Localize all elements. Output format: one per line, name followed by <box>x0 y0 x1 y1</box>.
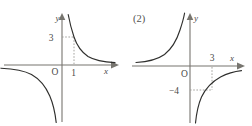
figure-1-graph: y x O 3 1 <box>0 0 126 126</box>
figure-2-graph: y x O 3 −4 <box>126 0 252 126</box>
figure-1-branch-quadrant-1 <box>68 15 115 63</box>
figure-2: (2) y x O 3 −4 <box>126 0 252 126</box>
figure-1-x-axis-label: x <box>103 66 108 76</box>
figure-2-x-axis-arrow <box>237 63 245 70</box>
figure-2-y-tick-label: −4 <box>169 86 179 96</box>
figure-1-origin-label: O <box>52 67 59 77</box>
figure-2-branch-quadrant-2 <box>136 13 185 63</box>
figure-1-y-axis-arrow <box>59 13 66 20</box>
figure-2-x-axis-label: x <box>229 53 234 63</box>
figure-1-x-tick-label: 1 <box>71 68 76 78</box>
figure-2-x-tick-label: 3 <box>210 53 215 63</box>
figure-sheet: ) y x O 3 1 (2) <box>0 0 252 126</box>
figure-2-branch-quadrant-4 <box>196 71 242 123</box>
figure-1: ) y x O 3 1 <box>0 0 126 126</box>
figure-2-origin-label: O <box>181 69 188 79</box>
figure-2-y-axis-arrow <box>187 13 194 20</box>
figure-2-y-axis-label: y <box>193 13 198 23</box>
figure-1-y-axis-label: y <box>55 13 60 23</box>
figure-1-branch-quadrant-3 <box>1 68 56 122</box>
figure-1-y-tick-label: 3 <box>49 33 54 43</box>
